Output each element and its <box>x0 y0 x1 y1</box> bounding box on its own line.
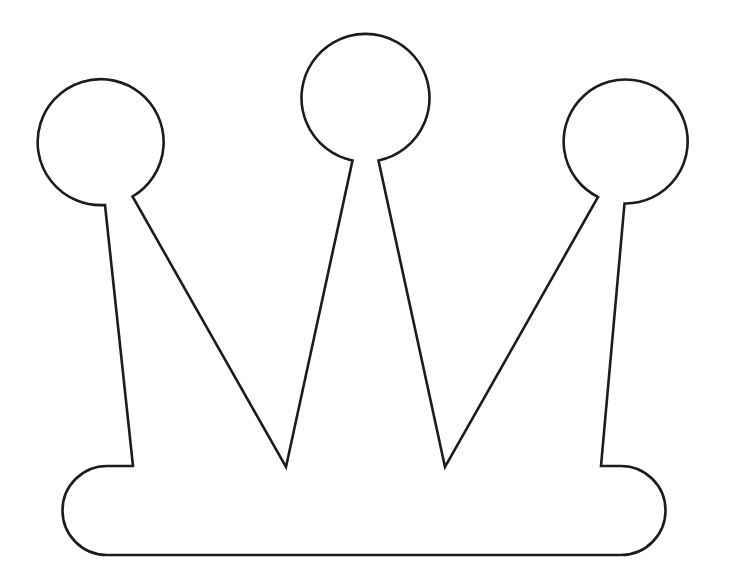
crown-diagram <box>0 0 731 583</box>
crown-outline-path <box>38 34 688 555</box>
drawing-canvas <box>0 0 731 583</box>
